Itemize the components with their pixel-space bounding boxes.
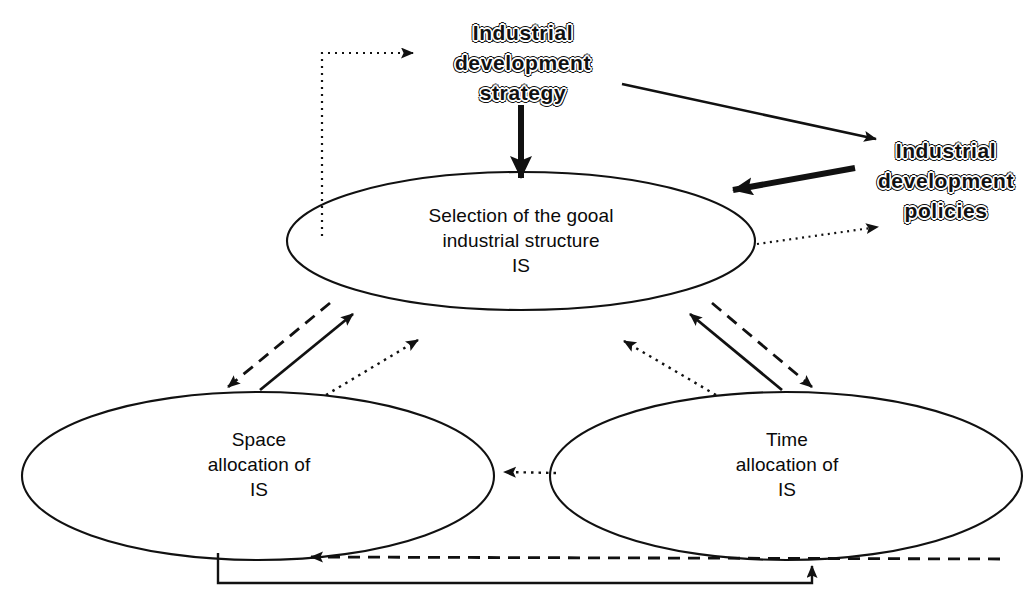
edge-time-to-goal-dotted [624, 341, 716, 395]
edge-space-to-goal-solid [260, 314, 353, 390]
edge-time-to-goal-solid [690, 314, 782, 390]
edge-space-to-goal-dotted [326, 340, 418, 395]
node-goal-structure-ellipse[interactable] [287, 172, 755, 310]
diagram-canvas: Industrial development strategy Industri… [0, 0, 1035, 608]
edge-strategy-to-policies [622, 84, 876, 139]
edge-goal-to-policies-feedback [757, 227, 878, 244]
edge-policies-to-goal [733, 168, 855, 190]
node-space-allocation-ellipse[interactable] [22, 392, 494, 560]
edge-time-to-space-dotted [504, 472, 556, 473]
diagram-svg [0, 0, 1035, 608]
node-time-allocation-ellipse[interactable] [550, 392, 1022, 560]
edge-time-to-space-dashed-bottom [311, 557, 1000, 559]
